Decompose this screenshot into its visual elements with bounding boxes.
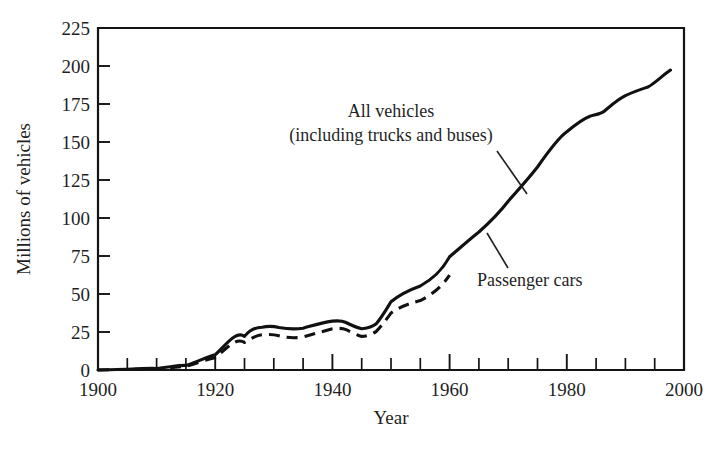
x-tick-label-1900: 1900: [79, 379, 117, 400]
y-tick-label-150: 150: [62, 132, 91, 153]
y-tick-label-175: 175: [62, 94, 91, 115]
annotation-passenger-cars-leader: [487, 233, 508, 268]
y-tick-label-200: 200: [62, 56, 91, 77]
annotation-all-vehicles-line1: All vehicles: [348, 101, 434, 121]
x-tick-label-2000: 2000: [665, 379, 703, 400]
series-line-passenger-cars: [98, 275, 450, 370]
y-axis-ticks: [98, 28, 110, 370]
y-tick-label-125: 125: [62, 170, 91, 191]
y-axis-title: Millions of vehicles: [13, 123, 34, 275]
y-tick-label-225: 225: [62, 18, 91, 39]
x-tick-label-1920: 1920: [196, 379, 234, 400]
chart-figure: 0 25 50 75 100 125 150 175 200 225: [0, 0, 723, 451]
y-tick-label-50: 50: [71, 284, 90, 305]
annotation-all-vehicles-leader: [497, 151, 527, 194]
vehicles-line-chart: 0 25 50 75 100 125 150 175 200 225: [0, 0, 723, 451]
y-axis-tick-labels: 0 25 50 75 100 125 150 175 200 225: [62, 18, 91, 381]
x-axis-tick-labels: 1900 1920 1940 1960 1980 2000: [79, 379, 703, 400]
annotation-passenger-cars-label: Passenger cars: [477, 270, 582, 290]
y-tick-label-100: 100: [62, 208, 91, 229]
x-tick-label-1940: 1940: [313, 379, 351, 400]
x-tick-label-1960: 1960: [431, 379, 469, 400]
x-tick-label-1980: 1980: [548, 379, 586, 400]
x-axis-title: Year: [373, 407, 409, 428]
annotation-all-vehicles-line2: (including trucks and buses): [289, 125, 492, 146]
plot-frame: [98, 28, 684, 370]
annotation-all-vehicles: All vehicles (including trucks and buses…: [289, 101, 527, 194]
y-tick-label-75: 75: [71, 246, 90, 267]
y-tick-label-0: 0: [81, 360, 91, 381]
annotation-passenger-cars: Passenger cars: [477, 233, 582, 290]
y-tick-label-25: 25: [71, 322, 90, 343]
